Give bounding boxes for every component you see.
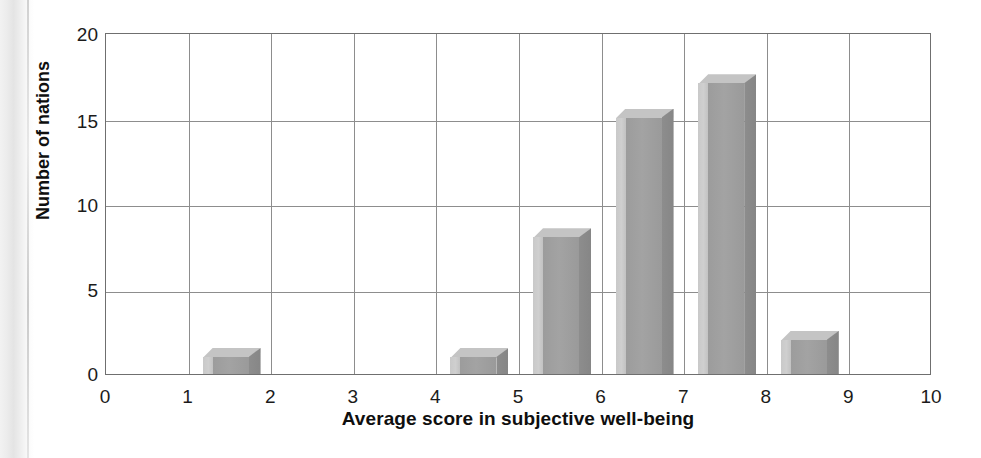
bar-bin-7-8 <box>698 74 756 374</box>
y-tick-10: 10 <box>58 195 98 217</box>
gridline-x-1 <box>189 34 190 374</box>
bar-bin-1-2 <box>203 348 261 374</box>
x-tick-1: 1 <box>166 386 210 408</box>
y-tick-15: 15 <box>58 111 98 133</box>
x-tick-3: 3 <box>331 386 375 408</box>
x-tick-10: 10 <box>909 386 953 408</box>
bar-right-face <box>662 109 674 375</box>
plot-area <box>105 33 931 375</box>
x-tick-5: 5 <box>496 386 540 408</box>
bar-left-face <box>533 237 543 374</box>
x-tick-9: 9 <box>826 386 870 408</box>
bar-front-face <box>626 118 662 375</box>
bar-right-face <box>744 74 756 374</box>
bar-bin-8-9 <box>781 331 839 374</box>
bar-front-face <box>460 357 496 374</box>
bar-front-face <box>791 340 827 374</box>
bar-front-face <box>213 357 249 374</box>
bar-bin-4-5 <box>450 348 508 374</box>
x-tick-4: 4 <box>413 386 457 408</box>
bar-right-face <box>579 228 591 374</box>
chart-screenshot: Number of nations 0 5 10 15 20 <box>0 0 981 458</box>
y-tick-20: 20 <box>58 24 98 46</box>
gridline-x-5 <box>519 34 520 374</box>
bar-left-face <box>616 118 626 375</box>
x-tick-0: 0 <box>83 386 127 408</box>
x-axis-title: Average score in subjective well-being <box>105 408 931 430</box>
bar-left-face <box>450 357 460 374</box>
gridline-y-10 <box>106 206 930 207</box>
scan-edge-line <box>27 0 29 458</box>
gridline-x-2 <box>271 34 272 374</box>
bar-bin-5-6 <box>533 228 591 374</box>
gridline-x-6 <box>602 34 603 374</box>
gridline-y-15 <box>106 121 930 122</box>
x-tick-8: 8 <box>744 386 788 408</box>
bar-bin-6-7 <box>616 109 674 375</box>
bar-front-face <box>543 237 579 374</box>
gridline-x-8 <box>767 34 768 374</box>
gridline-x-9 <box>849 34 850 374</box>
bar-left-face <box>203 357 213 374</box>
bar-front-face <box>708 83 744 374</box>
gridline-y-5 <box>106 292 930 293</box>
bar-left-face <box>698 83 708 374</box>
y-tick-5: 5 <box>58 280 98 302</box>
x-tick-2: 2 <box>248 386 292 408</box>
y-tick-0: 0 <box>58 364 98 386</box>
x-tick-7: 7 <box>661 386 705 408</box>
gridline-x-7 <box>684 34 685 374</box>
bar-left-face <box>781 340 791 374</box>
gridline-x-4 <box>436 34 437 374</box>
gridline-x-3 <box>354 34 355 374</box>
x-tick-6: 6 <box>579 386 623 408</box>
